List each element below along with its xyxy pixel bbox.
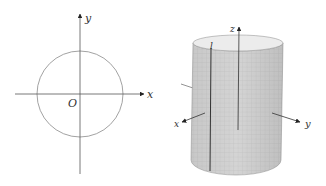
x-axis-back <box>181 84 193 88</box>
line-l-label: l <box>210 41 213 51</box>
z-axis-label: z <box>229 24 235 34</box>
y-axis-label: y <box>84 12 92 25</box>
x-axis-label: x <box>174 119 179 129</box>
cylinder-top <box>193 35 283 51</box>
x-axis-label: x <box>147 88 154 101</box>
origin-label: O <box>68 97 77 110</box>
figure-canvas: y x O z l x y <box>0 0 326 186</box>
y-axis-label: y <box>304 118 311 129</box>
right-figure: z l x y <box>174 24 311 175</box>
left-figure: y x O <box>15 12 154 174</box>
